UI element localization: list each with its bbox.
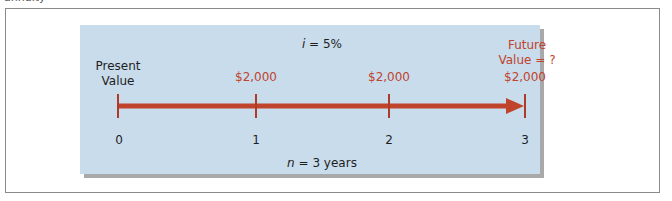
present-value-line2: Value — [95, 74, 140, 89]
future-value-line2: Value = ? — [498, 53, 555, 68]
interest-rate-label: i = 5% — [302, 37, 342, 52]
interest-value: = 5% — [305, 37, 342, 51]
cash-flow-2: $2,000 — [368, 70, 410, 85]
duration-var: n — [287, 156, 295, 170]
future-value-line1: Future — [498, 38, 555, 53]
period-label-0: 0 — [115, 133, 123, 148]
duration-value: = 3 years — [295, 156, 357, 170]
period-label-1: 1 — [252, 133, 260, 148]
cash-flow-1: $2,000 — [235, 70, 277, 85]
present-value-label: Present Value — [95, 59, 140, 89]
present-value-line1: Present — [95, 59, 140, 74]
period-label-2: 2 — [385, 133, 393, 148]
duration-label: n = 3 years — [287, 156, 357, 171]
cash-flow-3: $2,000 — [504, 70, 546, 85]
future-value-label: Future Value = ? — [498, 38, 555, 68]
arrowhead-icon — [506, 98, 524, 114]
period-label-3: 3 — [521, 133, 529, 148]
